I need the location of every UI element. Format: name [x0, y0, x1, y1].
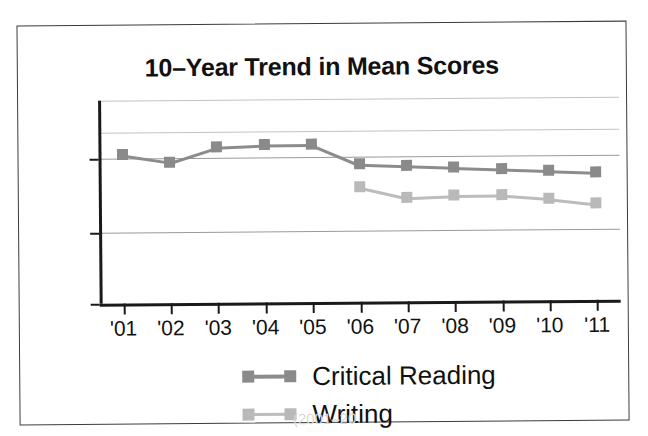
line-segment-writing [407, 195, 454, 200]
x-tick-label-08: '08 [441, 314, 469, 338]
x-tick-03 [218, 303, 220, 314]
data-point-critical-reading-07[interactable] [401, 160, 412, 171]
line-segment-critical-reading [549, 170, 596, 174]
x-tick-label-07: '07 [394, 314, 422, 338]
y-tick-485 [90, 233, 99, 235]
line-segment-writing [454, 194, 501, 197]
data-point-writing-06[interactable] [354, 181, 365, 192]
x-tick-label-05: '05 [299, 315, 327, 339]
x-tick-label-02: '02 [157, 316, 185, 340]
data-point-writing-07[interactable] [401, 191, 412, 202]
legend-label-critical-reading: Critical Reading [312, 359, 496, 391]
x-tick-label-10: '10 [536, 313, 564, 337]
plot-area: 505485475 '01'02'03'04'05'06'07'08'09'10… [98, 97, 621, 304]
line-segment-critical-reading [501, 169, 548, 173]
data-point-critical-reading-05[interactable] [306, 139, 317, 150]
chart-title: 10–Year Trend in Mean Scores [18, 50, 626, 84]
gridline-top-0 [98, 97, 619, 102]
y-tick-505 [90, 159, 99, 161]
x-tick-11 [597, 300, 599, 311]
data-point-writing-10[interactable] [543, 192, 554, 203]
y-axis-line [98, 101, 103, 304]
data-point-writing-08[interactable] [448, 189, 459, 200]
x-tick-label-04: '04 [252, 315, 280, 339]
line-segment-critical-reading [454, 167, 501, 171]
x-tick-04 [265, 302, 267, 313]
y-tick-475 [91, 304, 100, 306]
gridline-top-1 [98, 129, 619, 134]
x-tick-label-11: '11 [584, 313, 610, 337]
figure-frame: 10–Year Trend in Mean Scores 505485475 '… [16, 21, 629, 426]
line-segment-critical-reading [264, 144, 311, 147]
data-point-writing-09[interactable] [496, 189, 507, 200]
x-tick-05 [313, 302, 315, 313]
data-point-critical-reading-04[interactable] [259, 139, 270, 150]
data-point-critical-reading-08[interactable] [448, 162, 459, 173]
data-point-critical-reading-06[interactable] [354, 159, 365, 170]
line-segment-writing [549, 198, 597, 206]
x-tick-label-03: '03 [204, 316, 232, 340]
x-tick-02 [171, 303, 173, 314]
data-point-critical-reading-03[interactable] [211, 141, 222, 152]
line-segment-critical-reading [406, 166, 453, 170]
gridline-485 [99, 229, 620, 234]
chart-figure: 10–Year Trend in Mean Scores 505485475 '… [0, 0, 648, 436]
x-tick-07 [408, 301, 410, 312]
x-tick-10 [550, 300, 552, 311]
line-segment-writing [359, 186, 407, 200]
x-tick-label-09: '09 [489, 313, 517, 337]
x-tick-09 [502, 301, 504, 312]
x-tick-label-01: '01 [110, 316, 138, 340]
data-point-writing-11[interactable] [591, 197, 602, 208]
data-point-critical-reading-10[interactable] [543, 164, 554, 175]
data-point-critical-reading-01[interactable] [117, 149, 128, 160]
data-point-critical-reading-11[interactable] [590, 166, 601, 177]
data-point-critical-reading-02[interactable] [164, 156, 175, 167]
line-segment-critical-reading [217, 145, 264, 150]
x-tick-08 [455, 301, 457, 312]
line-segment-writing [501, 194, 549, 200]
legend-item-critical-reading[interactable]: Critical Reading [242, 355, 572, 396]
line-segment-critical-reading [169, 147, 217, 165]
data-point-critical-reading-09[interactable] [496, 163, 507, 174]
legend-swatch-critical-reading [242, 369, 296, 383]
x-tick-06 [360, 302, 362, 313]
gridlines [98, 97, 619, 101]
line-segment-critical-reading [122, 155, 170, 165]
x-tick-label-06: '06 [347, 315, 375, 339]
line-segment-critical-reading [359, 164, 406, 168]
line-segment-critical-reading [311, 144, 360, 167]
x-tick-01 [123, 304, 125, 315]
